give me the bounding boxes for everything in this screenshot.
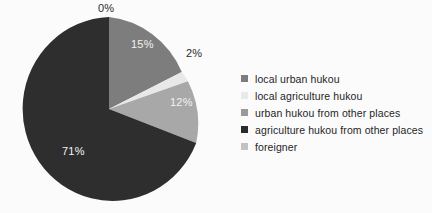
legend-swatch-icon	[241, 75, 248, 82]
legend-item-local-urban-hukou: local urban hukou	[241, 70, 431, 87]
legend-item-local-agriculture-hukou: local agriculture hukou	[241, 87, 431, 104]
legend-item-label: local urban hukou	[255, 73, 340, 85]
legend-swatch-icon	[241, 109, 248, 116]
chart-legend: local urban hukou local agriculture huko…	[241, 70, 431, 155]
legend-item-agriculture-hukou-other-places: agriculture hukou from other places	[241, 121, 431, 138]
legend-item-foreigner: foreigner	[241, 138, 431, 155]
pie-label-0-percent: 0%	[98, 2, 114, 14]
pie-label-2-percent: 2%	[186, 47, 202, 59]
legend-item-label: urban hukou from other places	[255, 107, 400, 119]
pie-chart-area: 0% 15% 2% 12% 71%	[0, 0, 225, 213]
legend-swatch-icon	[241, 92, 248, 99]
legend-item-label: local agriculture hukou	[255, 90, 362, 102]
pie-chart-graphic	[18, 17, 200, 201]
legend-item-label: agriculture hukou from other places	[255, 124, 423, 136]
pie-label-12-percent: 12%	[170, 96, 193, 108]
pie-label-15-percent: 15%	[131, 38, 154, 50]
legend-swatch-icon	[241, 143, 248, 150]
legend-item-label: foreigner	[255, 141, 297, 153]
legend-item-urban-hukou-other-places: urban hukou from other places	[241, 104, 431, 121]
pie-label-71-percent: 71%	[62, 145, 85, 157]
legend-swatch-icon	[241, 126, 248, 133]
